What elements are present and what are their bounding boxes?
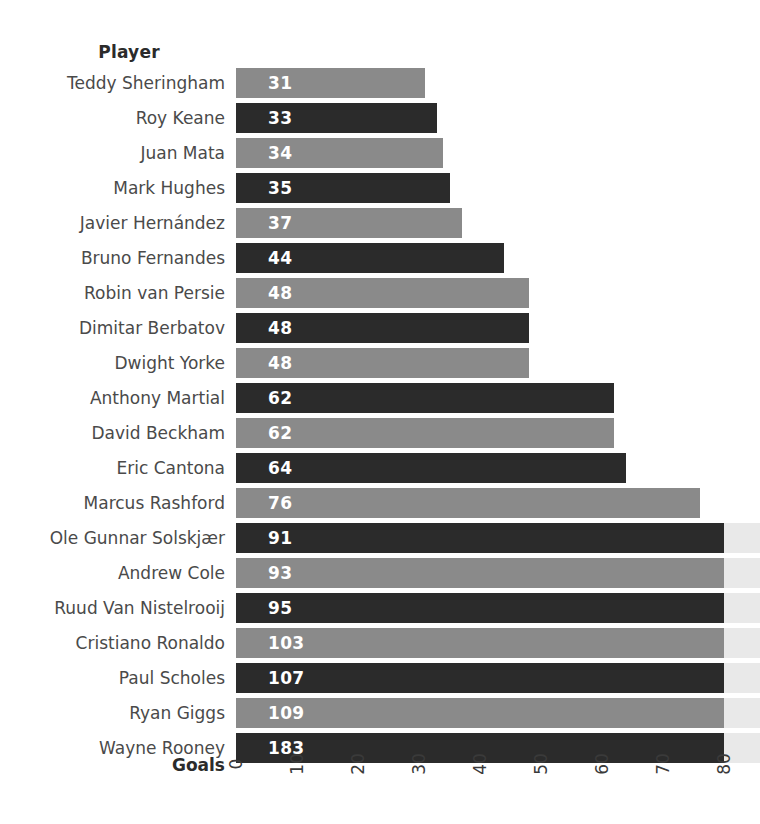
- x-axis-tick: 0: [226, 752, 246, 776]
- bar-row-label: Ruud Van Nistelrooij: [0, 593, 225, 623]
- bar-fill[interactable]: [236, 103, 437, 133]
- bar-fill[interactable]: [236, 698, 724, 728]
- bar-row: Mark Hughes35: [0, 173, 758, 208]
- bar-row-label: Anthony Martial: [0, 383, 225, 413]
- bar-fill[interactable]: [236, 593, 724, 623]
- bar-value-label: 34: [268, 138, 292, 168]
- bar-track: 103: [236, 628, 760, 658]
- bar-track: 91: [236, 523, 760, 553]
- bar-track: 48: [236, 348, 760, 378]
- x-axis-tick: 80: [714, 752, 734, 776]
- bar-fill[interactable]: [236, 523, 724, 553]
- bar-overflow-band: [724, 698, 760, 728]
- bar-row-label: Bruno Fernandes: [0, 243, 225, 273]
- bar-value-label: 64: [268, 453, 292, 483]
- bar-value-label: 31: [268, 68, 292, 98]
- bar-value-label: 35: [268, 173, 292, 203]
- bar-fill[interactable]: [236, 453, 626, 483]
- bar-row: Andrew Cole93: [0, 558, 758, 593]
- bar-fill[interactable]: [236, 628, 724, 658]
- bar-value-label: 62: [268, 418, 292, 448]
- bar-track: 109: [236, 698, 760, 728]
- bar-fill[interactable]: [236, 383, 614, 413]
- bar-row-label: Roy Keane: [0, 103, 225, 133]
- bar-row-label: Ryan Giggs: [0, 698, 225, 728]
- bar-value-label: 44: [268, 243, 292, 273]
- bar-track: 62: [236, 418, 760, 448]
- bar-value-label: 37: [268, 208, 292, 238]
- bar-row: Marcus Rashford76: [0, 488, 758, 523]
- x-axis: Goals 01020304050607080: [0, 752, 758, 824]
- bar-row-label: Marcus Rashford: [0, 488, 225, 518]
- bar-row: Dwight Yorke48: [0, 348, 758, 383]
- bar-value-label: 48: [268, 348, 292, 378]
- bar-fill[interactable]: [236, 418, 614, 448]
- plot-area: Teddy Sheringham31Roy Keane33Juan Mata34…: [0, 68, 758, 752]
- bar-row: Bruno Fernandes44: [0, 243, 758, 278]
- bar-row-label: Andrew Cole: [0, 558, 225, 588]
- bar-row-label: Juan Mata: [0, 138, 225, 168]
- bar-row: Juan Mata34: [0, 138, 758, 173]
- bar-overflow-band: [724, 523, 760, 553]
- bar-row-label: David Beckham: [0, 418, 225, 448]
- bar-row-label: Teddy Sheringham: [0, 68, 225, 98]
- bar-value-label: 95: [268, 593, 292, 623]
- bar-fill[interactable]: [236, 663, 724, 693]
- bar-value-label: 62: [268, 383, 292, 413]
- bar-track: 35: [236, 173, 760, 203]
- bar-value-label: 48: [268, 313, 292, 343]
- bar-row: Ruud Van Nistelrooij95: [0, 593, 758, 628]
- bar-track: 48: [236, 278, 760, 308]
- bar-value-label: 93: [268, 558, 292, 588]
- bar-overflow-band: [724, 663, 760, 693]
- bar-track: 95: [236, 593, 760, 623]
- bar-track: 37: [236, 208, 760, 238]
- bar-row: Teddy Sheringham31: [0, 68, 758, 103]
- bar-row-label: Paul Scholes: [0, 663, 225, 693]
- bar-value-label: 107: [268, 663, 304, 693]
- bar-row-label: Cristiano Ronaldo: [0, 628, 225, 658]
- bar-row-label: Javier Hernández: [0, 208, 225, 238]
- bar-value-label: 183: [268, 733, 304, 763]
- bar-row-label: Robin van Persie: [0, 278, 225, 308]
- bar-row: Ole Gunnar Solskjær91: [0, 523, 758, 558]
- bar-track: 64: [236, 453, 760, 483]
- bar-row: Eric Cantona64: [0, 453, 758, 488]
- bar-track: 34: [236, 138, 760, 168]
- bar-overflow-band: [724, 558, 760, 588]
- bar-track: 107: [236, 663, 760, 693]
- bar-value-label: 103: [268, 628, 304, 658]
- bar-value-label: 33: [268, 103, 292, 133]
- bar-track: 48: [236, 313, 760, 343]
- bar-row: Paul Scholes107: [0, 663, 758, 698]
- bar-track: 76: [236, 488, 760, 518]
- bar-row: Dimitar Berbatov48: [0, 313, 758, 348]
- x-axis-title: Goals: [0, 752, 225, 778]
- bar-value-label: 76: [268, 488, 292, 518]
- bar-row-label: Ole Gunnar Solskjær: [0, 523, 225, 553]
- bar-row: Cristiano Ronaldo103: [0, 628, 758, 663]
- bar-row-label: Dwight Yorke: [0, 348, 225, 378]
- bar-row: David Beckham62: [0, 418, 758, 453]
- bar-overflow-band: [724, 628, 760, 658]
- bar-track: 44: [236, 243, 760, 273]
- bar-fill[interactable]: [236, 68, 425, 98]
- player-column-header: Player: [0, 42, 258, 62]
- x-axis-tick: 70: [653, 752, 673, 776]
- bar-row: Javier Hernández37: [0, 208, 758, 243]
- x-axis-tick: 50: [531, 752, 551, 776]
- x-axis-tick: 20: [348, 752, 368, 776]
- bar-value-label: 109: [268, 698, 304, 728]
- x-axis-tick: 30: [409, 752, 429, 776]
- x-axis-tick: 60: [592, 752, 612, 776]
- bar-track: 62: [236, 383, 760, 413]
- bar-row-label: Dimitar Berbatov: [0, 313, 225, 343]
- bar-row: Roy Keane33: [0, 103, 758, 138]
- bar-row-label: Eric Cantona: [0, 453, 225, 483]
- bar-fill[interactable]: [236, 488, 700, 518]
- bar-track: 93: [236, 558, 760, 588]
- bar-fill[interactable]: [236, 558, 724, 588]
- bar-overflow-band: [724, 593, 760, 623]
- bar-row-label: Mark Hughes: [0, 173, 225, 203]
